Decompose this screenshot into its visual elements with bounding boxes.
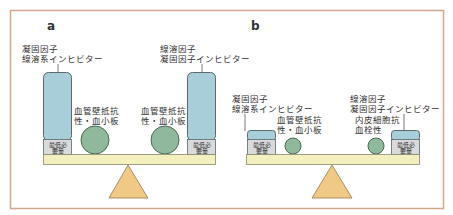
left-column-label-line1: 凝固因子 bbox=[232, 94, 268, 104]
balance-beam bbox=[44, 155, 216, 165]
right-column-bar bbox=[188, 73, 216, 141]
right-min-label-line2: 要量 bbox=[400, 147, 412, 155]
right-column-label-line2: 凝固因子インヒビター bbox=[350, 104, 440, 114]
right-circle-label-line1: 内皮細胞抗 bbox=[355, 115, 400, 125]
left-column-bar bbox=[44, 73, 72, 141]
right-circle-label-line2: 血栓性 bbox=[355, 125, 382, 135]
left-circle-label-line2: 性・血小板 bbox=[277, 125, 322, 135]
right-circle-platelet bbox=[151, 126, 179, 154]
right-min-label-line2: 要量 bbox=[196, 147, 208, 155]
left-column-label-line2: 線溶系インヒビター bbox=[22, 54, 103, 64]
left-column-label-line2: 線溶系インヒビター bbox=[232, 104, 313, 114]
left-column-label-line1: 凝固因子 bbox=[22, 44, 58, 54]
left-circle-label-line2: 性・血小板 bbox=[74, 116, 119, 126]
right-column-label-line1: 線溶因子 bbox=[160, 44, 196, 54]
right-circle-endothelial bbox=[368, 138, 384, 154]
left-min-label-line2: 要量 bbox=[256, 147, 268, 155]
panel-label-a: a bbox=[47, 19, 55, 33]
left-circle-platelet bbox=[285, 138, 301, 154]
left-column-bar bbox=[248, 131, 276, 141]
left-circle-label-line1: 血管壁抵抗 bbox=[277, 115, 322, 125]
right-circle-label-line1: 血管壁抵抗 bbox=[141, 106, 186, 116]
left-circle-platelet bbox=[81, 126, 109, 154]
panel-label-b: b bbox=[251, 19, 260, 33]
left-min-label-line2: 要量 bbox=[52, 147, 64, 155]
balance-beam bbox=[247, 155, 420, 165]
right-column-label-line1: 線溶因子 bbox=[350, 94, 386, 104]
right-column-bar bbox=[392, 131, 420, 141]
right-circle-label-line2: 性・血小板 bbox=[141, 116, 186, 126]
right-column-label-line2: 凝固因子インヒビター bbox=[160, 54, 250, 64]
left-circle-label-line1: 血管壁抵抗 bbox=[74, 106, 119, 116]
balance-diagram: a 凝固因子 線溶系インヒビター 最低必 要量 血管壁抵抗 性・血小板 血管壁抵… bbox=[0, 0, 453, 215]
